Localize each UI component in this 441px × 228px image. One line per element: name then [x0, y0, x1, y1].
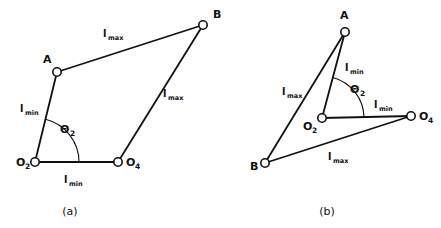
- panel-b-caption: (b): [319, 205, 335, 218]
- panel-a-joint-label-b: B: [213, 8, 221, 21]
- panel-a-ground-link-length-label: l: [64, 174, 67, 185]
- panel-b-joint-label-b: B: [250, 160, 258, 173]
- panel-b-rocker-link-length-label: l: [328, 151, 331, 162]
- panel-b-joint-o2[interactable]: [318, 114, 326, 122]
- panel-b-joint-label-a: A: [340, 9, 349, 22]
- panel-a-caption: (a): [62, 205, 77, 218]
- panel-a-crank-link-length-subscript: min: [25, 109, 39, 117]
- panel-a-joint-subscript-o2: 2: [25, 162, 30, 171]
- panel-b-ground-link-length-subscript: min: [379, 105, 393, 113]
- panel-b-ground-link-length-label: l: [374, 99, 377, 110]
- panel-b-crank-link-length-subscript: min: [350, 68, 364, 76]
- panel-b-joint-label-o2: O: [303, 120, 312, 133]
- panel-a-joint-subscript-o4: 4: [135, 162, 140, 171]
- panel-b-coupler-link-length-subscript: max: [287, 92, 303, 100]
- panel-a-rocker-link-length-label: l: [163, 88, 166, 99]
- panel-b-rocker-link-length-subscript: max: [333, 157, 349, 165]
- panel-b-joint-label-o4: O: [419, 110, 428, 123]
- panel-b-joint-subscript-o2: 2: [312, 126, 317, 135]
- panel-a-rocker-link-length-subscript: max: [168, 94, 184, 102]
- panel-b-crank-link-length-label: l: [345, 62, 348, 73]
- panel-a-coupler-link-length-label: l: [103, 28, 106, 39]
- panel-a-coupler-link-length-subscript: max: [108, 34, 124, 42]
- panel-a-angle-label: Θ: [60, 123, 69, 136]
- panel-b-coupler-link-length-label: l: [282, 86, 285, 97]
- panel-b-joint-o4[interactable]: [407, 112, 415, 120]
- panel-a-joint-o2[interactable]: [31, 158, 39, 166]
- linkage-figure-canvas: Θ2lminlminlmaxlmaxO2ABO4(a)Θ2lminlminlma…: [0, 0, 441, 228]
- panel-a-joint-o4[interactable]: [114, 158, 122, 166]
- panel-a-ground-link-length-subscript: min: [69, 180, 83, 188]
- panel-a-joint-a[interactable]: [53, 68, 61, 76]
- panel-a-joint-label-a: A: [43, 53, 52, 66]
- panel-b-joint-subscript-o4: 4: [428, 116, 433, 125]
- panel-a-angle-subscript: 2: [70, 129, 75, 138]
- panel-b-joint-a[interactable]: [341, 28, 349, 36]
- panel-a-crank-link-length-label: l: [20, 103, 23, 114]
- panel-a-joint-b[interactable]: [199, 21, 207, 29]
- panel-b-angle-label: Θ: [350, 83, 359, 96]
- panel-b-angle-subscript: 2: [360, 89, 365, 98]
- panel-a-joint-label-o2: O: [16, 156, 25, 169]
- figure-root: Θ2lminlminlmaxlmaxO2ABO4(a)Θ2lminlminlma…: [0, 0, 441, 228]
- figure-background: [0, 0, 441, 228]
- panel-b-joint-b[interactable]: [261, 159, 269, 167]
- panel-a-joint-label-o4: O: [126, 156, 135, 169]
